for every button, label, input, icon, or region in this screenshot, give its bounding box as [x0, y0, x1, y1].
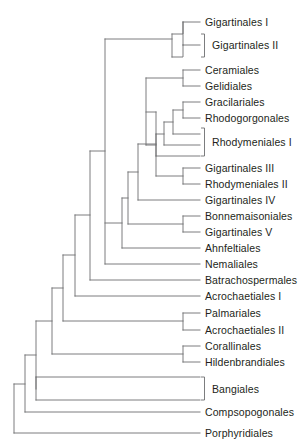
cladogram-svg: [0, 0, 306, 443]
taxon-label-compsopogonales: Compsopogonales: [205, 407, 294, 418]
taxon-label-bangiales: Bangiales: [212, 384, 259, 395]
taxon-label-hildenbrandiales: Hildenbrandiales: [205, 357, 285, 368]
taxon-label-ahnfeltiales: Ahnfeltiales: [205, 243, 260, 254]
taxon-label-gigartinales_v: Gigartinales V: [205, 227, 272, 238]
taxon-label-acrochaetiales_i: Acrochaetiales I: [205, 291, 281, 302]
group-brackets: [201, 34, 205, 400]
taxon-label-gigartinales_ii: Gigartinales II: [212, 40, 278, 51]
taxon-label-corallinales: Corallinales: [205, 341, 261, 352]
taxon-label-gelidiales: Gelidiales: [205, 81, 252, 92]
taxon-label-gigartinales_iii: Gigartinales III: [205, 163, 274, 174]
phylogenetic-tree-figure: Gigartinales IGigartinales IICeramialesG…: [0, 0, 306, 443]
taxon-label-porphyridiales: Porphyridiales: [205, 428, 273, 439]
taxon-label-rhodogorgonales: Rhodogorgonales: [205, 113, 289, 124]
bracket-bangiales: [201, 377, 205, 400]
taxon-label-batrachospermales: Batrachospermales: [205, 275, 297, 286]
node-gigartinales-ii-stem: [172, 45, 183, 57]
taxon-label-palmariales: Palmariales: [205, 308, 261, 319]
taxon-label-acrochaetiales_ii: Acrochaetiales II: [205, 325, 284, 336]
taxon-label-rhodymeniales_i: Rhodymeniales I: [212, 137, 292, 148]
node-gigartinales-i-stem: [172, 22, 183, 34]
taxon-label-rhodymeniales_ii: Rhodymeniales II: [205, 179, 288, 190]
taxon-label-ceramiales: Ceramiales: [205, 65, 259, 76]
taxon-label-nemaliales: Nemaliales: [205, 259, 258, 270]
bracket-rhodymeniales_i: [201, 128, 205, 156]
taxon-label-bonnemaisoniales: Bonnemaisoniales: [205, 211, 292, 222]
taxon-label-gracilariales: Gracilariales: [205, 97, 265, 108]
taxon-label-gigartinales_i: Gigartinales I: [205, 17, 268, 28]
tree-branches: [14, 22, 200, 433]
taxon-label-gigartinales_iv: Gigartinales IV: [205, 195, 275, 206]
bracket-gigartinales_ii: [201, 34, 205, 57]
